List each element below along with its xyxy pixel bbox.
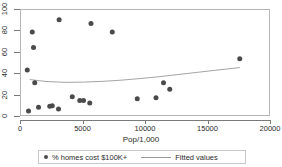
- legend-marker-circle-icon: [44, 155, 48, 159]
- data-point: [81, 98, 86, 103]
- data-point: [32, 80, 37, 85]
- legend-item-fitted[interactable]: Fitted values: [127, 151, 218, 163]
- plot-canvas: [21, 10, 271, 117]
- data-point: [70, 94, 75, 99]
- legend-item-points[interactable]: % homes cost $100K+: [39, 151, 127, 163]
- fitted-line-path: [30, 68, 240, 83]
- legend-label-points: % homes cost $100K+: [52, 153, 127, 162]
- data-point: [56, 106, 61, 111]
- x-tick-label: 5000: [63, 125, 103, 133]
- fitted-values-line: [30, 68, 240, 83]
- y-tick-label: 100: [1, 0, 9, 22]
- plot-area: [20, 9, 270, 116]
- x-tick-label: 0: [0, 125, 40, 133]
- chart-root: 020406080100 05000100001500020000 Pop/1,…: [0, 0, 282, 167]
- data-point: [167, 87, 172, 92]
- x-tick-label: 10000: [125, 125, 165, 133]
- y-tick: [14, 116, 20, 117]
- data-point: [31, 45, 36, 50]
- x-tick-label: 15000: [188, 125, 228, 133]
- data-point: [26, 109, 31, 114]
- data-point: [135, 96, 140, 101]
- data-point: [237, 56, 242, 61]
- data-point: [161, 80, 166, 85]
- data-point: [110, 29, 115, 34]
- data-point: [89, 21, 94, 26]
- data-point: [30, 29, 35, 34]
- data-point: [87, 101, 92, 106]
- scatter-points: [25, 17, 243, 113]
- x-axis-title: Pop/1,000: [0, 135, 282, 144]
- data-point: [154, 95, 159, 100]
- legend-label-fitted: Fitted values: [175, 153, 218, 162]
- x-tick-label: 20000: [250, 125, 282, 133]
- data-point: [36, 105, 41, 110]
- legend-marker-line-icon: [141, 157, 171, 158]
- data-point: [25, 67, 30, 72]
- data-point: [57, 17, 62, 22]
- chart-legend: % homes cost $100K+ Fitted values: [38, 150, 246, 164]
- data-point: [50, 103, 55, 108]
